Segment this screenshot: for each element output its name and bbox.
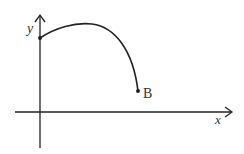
point-b-label: B [143, 86, 152, 101]
point-b [136, 89, 140, 93]
x-axis [15, 107, 232, 117]
y-axis-label: y [25, 21, 34, 36]
graph-diagram: y x B [0, 0, 244, 154]
start-point [38, 36, 42, 40]
x-axis-label: x [214, 112, 221, 127]
function-curve [40, 24, 138, 91]
